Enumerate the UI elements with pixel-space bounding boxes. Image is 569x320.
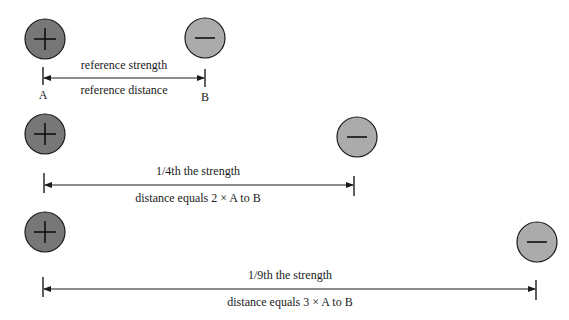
negative-charge-icon [517, 222, 557, 262]
distance-label: distance equals 2 × A to B [135, 191, 260, 205]
strength-label: reference strength [81, 58, 167, 72]
row-2-double-distance [25, 114, 377, 196]
distance-label: distance equals 3 × A to B [227, 295, 352, 309]
negative-charge-icon [337, 117, 377, 157]
strength-label: 1/9th the strength [248, 268, 332, 282]
positive-charge-icon [25, 114, 65, 154]
negative-charge-icon [185, 18, 225, 58]
positive-charge-icon [25, 19, 65, 59]
row-1-reference [25, 18, 225, 87]
distance-label: reference distance [81, 83, 168, 97]
row-3-triple-distance [25, 212, 557, 300]
strength-label: 1/4th the strength [156, 164, 240, 178]
positive-charge-icon [25, 212, 65, 252]
point-b-label: B [201, 90, 209, 104]
point-a-label: A [39, 88, 48, 102]
